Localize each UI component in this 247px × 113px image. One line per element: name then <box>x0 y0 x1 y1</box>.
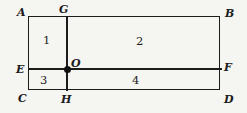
region-label-3: 3 <box>40 74 47 86</box>
point-label-B: B <box>225 8 234 19</box>
geometry-diagram: A G B E O F C H D 1 2 3 4 <box>0 0 247 113</box>
segment-GH <box>66 16 68 91</box>
region-label-1: 1 <box>43 34 50 46</box>
rectangle-ABDC-outline <box>28 16 220 90</box>
point-O-dot <box>64 66 71 73</box>
point-label-A: A <box>17 7 26 18</box>
point-label-E: E <box>16 64 24 75</box>
point-label-D: D <box>224 94 234 105</box>
point-label-O: O <box>71 58 81 69</box>
segment-EF <box>28 68 222 70</box>
region-label-2: 2 <box>136 35 143 47</box>
point-label-G: G <box>59 4 68 15</box>
point-label-F: F <box>224 62 232 73</box>
point-label-H: H <box>61 94 71 105</box>
point-label-C: C <box>18 93 27 104</box>
region-label-4: 4 <box>132 74 139 86</box>
